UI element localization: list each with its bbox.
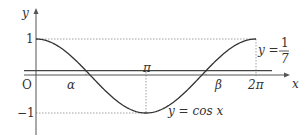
pi-label: π [142,61,152,75]
y-axis-label: y [21,6,29,20]
two-pi-label: 2π [247,78,265,92]
y-tick-minus-1: −1 [17,106,35,120]
line-label-denominator: 7 [281,52,289,66]
y-tick-1: 1 [26,32,34,46]
guide-lines [36,39,256,113]
line-label-numerator: 1 [281,36,289,50]
cosine-graph: y x O 1 −1 α π β 2π y = cos x y = 1 7 [0,0,307,137]
origin-label: O [22,78,32,92]
curve-label: y = cos x [167,104,223,118]
alpha-label: α [67,78,75,92]
x-axis-label: x [292,77,299,91]
line-label-lhs: y = [257,43,279,57]
beta-label: β [214,78,222,92]
x-axis-arrow-icon [284,73,290,78]
y-axis-arrow-icon [34,8,39,14]
